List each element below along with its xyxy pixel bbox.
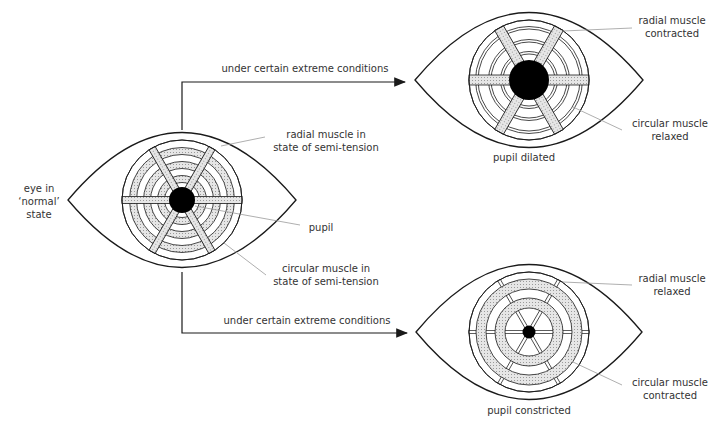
circular-relaxed-label: circular muscle relaxed: [625, 117, 712, 143]
label-line: radial muscle: [632, 14, 712, 27]
label-line: ‘normal’: [14, 195, 64, 208]
label-line: circular muscle: [625, 117, 712, 130]
label-line: circular muscle in: [262, 262, 390, 275]
label-line: contracted: [625, 389, 712, 402]
label-line: eye in: [14, 182, 64, 195]
label-line: under certain extreme conditions: [210, 62, 400, 75]
label-line: pupil constricted: [479, 404, 579, 417]
pupil-label: pupil: [301, 221, 341, 234]
pupil: [523, 326, 536, 339]
circular-contracted-label: circular muscle contracted: [625, 376, 712, 402]
dilated-eye: [415, 13, 643, 148]
label-line: state of semi-tension: [262, 275, 390, 288]
label-line: radial muscle: [632, 272, 712, 285]
radial-relaxed-label: radial muscle relaxed: [632, 272, 712, 298]
pupil: [509, 60, 549, 100]
radial-contracted-label: radial muscle contracted: [632, 14, 712, 40]
label-line: relaxed: [632, 285, 712, 298]
label-line: relaxed: [625, 130, 712, 143]
pupil-dilated-caption: pupil dilated: [484, 151, 564, 164]
lower-arrow-label: under certain extreme conditions: [212, 314, 402, 327]
label-line: circular muscle: [625, 376, 712, 389]
upper-arrow-label: under certain extreme conditions: [210, 62, 400, 75]
pupil-constricted-caption: pupil constricted: [479, 404, 579, 417]
label-line: contracted: [632, 27, 712, 40]
upper-arrow: [182, 82, 405, 130]
label-line: state of semi-tension: [262, 141, 390, 154]
normal-eye-label: eye in ‘normal’ state: [14, 182, 64, 221]
label-line: state: [14, 208, 64, 221]
circular-semi-tension-label: circular muscle in state of semi-tension: [262, 262, 390, 288]
constricted-eye: [416, 265, 642, 400]
radial-semi-tension-label: radial muscle in state of semi-tension: [262, 128, 390, 154]
label-line: radial muscle in: [262, 128, 390, 141]
label-line: pupil: [301, 221, 341, 234]
pupil: [169, 187, 195, 213]
label-line: under certain extreme conditions: [212, 314, 402, 327]
label-line: pupil dilated: [484, 151, 564, 164]
